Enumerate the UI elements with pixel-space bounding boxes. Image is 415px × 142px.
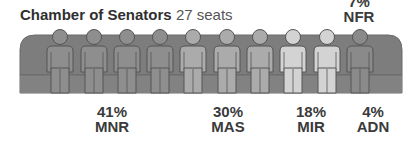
head-icon bbox=[120, 30, 135, 45]
label-nfr-party: NFR bbox=[329, 9, 389, 24]
head-icon bbox=[353, 30, 368, 45]
label-adn: 4% ADN bbox=[343, 104, 403, 134]
label-mas: 30% MAS bbox=[198, 104, 258, 134]
label-mas-party: MAS bbox=[198, 119, 258, 134]
bench-seat bbox=[20, 76, 402, 94]
label-adn-pct: 4% bbox=[343, 104, 403, 119]
head-icon bbox=[286, 30, 301, 45]
label-nfr: 7% NFR bbox=[329, 0, 389, 24]
label-mir-pct: 18% bbox=[281, 104, 341, 119]
label-mir: 18% MIR bbox=[281, 104, 341, 134]
head-icon bbox=[87, 30, 102, 45]
label-mnr-pct: 41% bbox=[82, 104, 142, 119]
head-icon bbox=[53, 30, 68, 45]
label-adn-party: ADN bbox=[343, 119, 403, 134]
head-icon bbox=[220, 30, 235, 45]
label-mir-party: MIR bbox=[281, 119, 341, 134]
head-icon bbox=[253, 30, 268, 45]
label-mnr: 41% MNR bbox=[82, 104, 142, 134]
label-mnr-party: MNR bbox=[82, 119, 142, 134]
head-icon bbox=[153, 30, 168, 45]
head-icon bbox=[320, 30, 335, 45]
label-mas-pct: 30% bbox=[198, 104, 258, 119]
head-icon bbox=[186, 30, 201, 45]
